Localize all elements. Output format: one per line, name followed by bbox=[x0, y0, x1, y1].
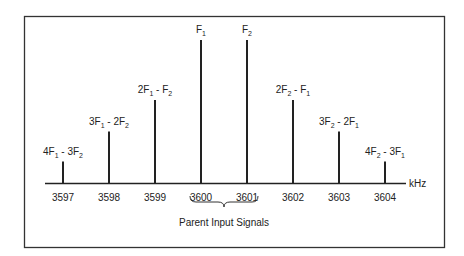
x-tick-label: 3604 bbox=[374, 192, 397, 203]
x-tick-label: 3603 bbox=[328, 192, 351, 203]
line-label: 2F1 - F2 bbox=[138, 84, 173, 97]
x-tick-label: 3598 bbox=[98, 192, 121, 203]
line-label: 3F1 - 2F2 bbox=[89, 116, 129, 129]
line-label: 2F2 - F1 bbox=[276, 84, 311, 97]
x-tick-label: 3599 bbox=[144, 192, 167, 203]
x-tick-label: 3602 bbox=[282, 192, 305, 203]
frame bbox=[25, 17, 445, 248]
line-label: 4F2 - 3F1 bbox=[365, 146, 405, 159]
x-tick-label: 3597 bbox=[52, 192, 75, 203]
line-label: F2 bbox=[242, 24, 252, 37]
x-axis-unit: kHz bbox=[409, 178, 426, 189]
line-label: F1 bbox=[196, 24, 206, 37]
intermodulation-spectrum-diagram: kHz 359735983599360036013602360336044F1 … bbox=[0, 0, 464, 256]
line-label: 4F1 - 3F2 bbox=[43, 146, 83, 159]
line-label: 3F2 - 2F1 bbox=[319, 116, 359, 129]
parent-signals-annotation: Parent Input Signals bbox=[179, 217, 269, 228]
